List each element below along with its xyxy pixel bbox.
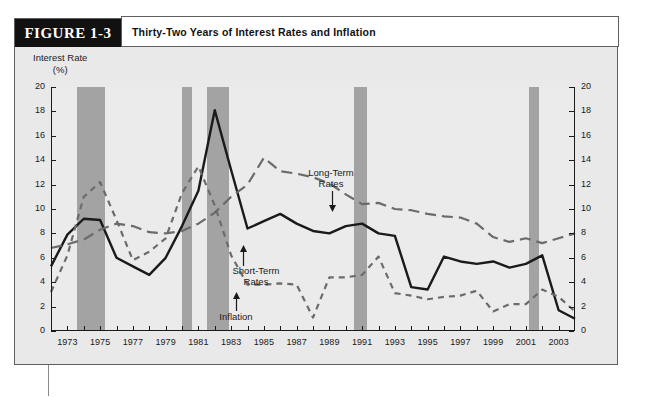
- y-tick-left: [51, 209, 56, 210]
- x-axis-tick-label: 1991: [345, 337, 379, 347]
- x-tick: [67, 326, 68, 331]
- y-tick-left: [51, 233, 56, 234]
- figure-title-bar: Thirty-Two Years of Interest Rates and I…: [121, 16, 619, 47]
- y-axis-tick-label-left: 2: [23, 301, 45, 311]
- y-axis-tick-label-right: 4: [581, 276, 603, 286]
- page-left-rule: [48, 365, 49, 396]
- y-axis-tick-label-left: 4: [23, 276, 45, 286]
- x-tick: [100, 326, 101, 331]
- x-tick: [346, 326, 347, 331]
- y-tick-right: [569, 258, 574, 259]
- x-axis-tick-label: 1977: [116, 337, 150, 347]
- x-tick: [411, 326, 412, 331]
- chart-plot-area: 02468101214161820 02468101214161820 1973…: [51, 87, 575, 331]
- x-axis-tick-label: 1983: [214, 337, 248, 347]
- x-axis-tick-label: 1995: [411, 337, 445, 347]
- x-axis-tick-label: 1975: [83, 337, 117, 347]
- y-axis-tick-label-right: 12: [581, 179, 603, 189]
- annotation-short-term-line1: Short-Term: [215, 265, 297, 276]
- x-axis-tick-label: 1985: [247, 337, 281, 347]
- x-axis-tick-label: 2003: [542, 337, 576, 347]
- figure-title-text: Thirty-Two Years of Interest Rates and I…: [132, 26, 376, 38]
- x-tick: [444, 326, 445, 331]
- x-axis-tick-label: 1993: [378, 337, 412, 347]
- y-tick-right: [569, 209, 574, 210]
- x-tick: [477, 326, 478, 331]
- x-tick: [166, 326, 167, 331]
- y-tick-left: [51, 307, 56, 308]
- y-axis-tick-label-left: 12: [23, 179, 45, 189]
- x-tick: [526, 326, 527, 331]
- x-tick: [117, 326, 118, 331]
- y-axis-tick-label-right: 20: [581, 81, 603, 91]
- x-tick: [559, 326, 560, 331]
- annotation-short-term-line2: Rates: [215, 276, 297, 287]
- y-axis-tick-label-left: 14: [23, 154, 45, 164]
- y-axis-tick-label-left: 18: [23, 105, 45, 115]
- y-axis-tick-label-left: 0: [23, 325, 45, 335]
- y-axis-tick-label-left: 20: [23, 81, 45, 91]
- y-axis-tick-label-right: 18: [581, 105, 603, 115]
- y-tick-left: [51, 282, 56, 283]
- y-tick-right: [569, 136, 574, 137]
- y-axis-tick-label-left: 10: [23, 203, 45, 213]
- x-tick: [198, 326, 199, 331]
- figure-number-label: FIGURE 1-3: [24, 25, 111, 42]
- chart-series-layer: [51, 87, 575, 331]
- x-tick: [362, 326, 363, 331]
- x-tick: [493, 326, 494, 331]
- x-tick: [264, 326, 265, 331]
- annotation-arrow-short-term-icon: [239, 244, 248, 266]
- y-axis-title: Interest Rate (%): [33, 52, 87, 76]
- y-axis-tick-label-left: 16: [23, 130, 45, 140]
- x-axis-tick-label: 1987: [280, 337, 314, 347]
- y-axis-tick-label-left: 8: [23, 227, 45, 237]
- y-tick-left: [51, 136, 56, 137]
- y-tick-left: [51, 160, 56, 161]
- annotation-inflation-line1: Inflation: [201, 311, 271, 322]
- x-axis-tick-label: 1979: [149, 337, 183, 347]
- x-axis-tick-label: 1997: [443, 337, 477, 347]
- x-tick: [313, 326, 314, 331]
- y-tick-right: [569, 111, 574, 112]
- x-tick: [460, 326, 461, 331]
- y-tick-left: [51, 111, 56, 112]
- y-tick-right: [569, 331, 574, 332]
- annotation-inflation: Inflation: [201, 311, 271, 322]
- x-tick: [133, 326, 134, 331]
- y-axis-tick-label-right: 10: [581, 203, 603, 213]
- annotation-long-term-line2: Rates: [291, 178, 371, 189]
- x-axis-tick-label: 2001: [509, 337, 543, 347]
- x-tick: [280, 326, 281, 331]
- y-tick-left: [51, 258, 56, 259]
- y-axis-title-line1: Interest Rate: [33, 52, 87, 64]
- y-axis-title-line2: (%): [33, 64, 87, 76]
- x-tick: [297, 326, 298, 331]
- y-axis-tick-label-left: 6: [23, 252, 45, 262]
- figure-panel: FIGURE 1-3 Thirty-Two Years of Interest …: [14, 18, 618, 365]
- annotation-long-term-rates: Long-Term Rates: [291, 167, 371, 189]
- x-tick: [182, 326, 183, 331]
- y-axis-tick-label-right: 16: [581, 130, 603, 140]
- x-tick: [428, 326, 429, 331]
- x-tick: [542, 326, 543, 331]
- x-tick: [149, 326, 150, 331]
- y-axis-tick-label-right: 2: [581, 301, 603, 311]
- annotation-arrow-inflation-icon: [232, 291, 241, 311]
- x-tick: [379, 326, 380, 331]
- x-tick: [329, 326, 330, 331]
- figure-number-block: FIGURE 1-3: [15, 19, 121, 47]
- y-axis-tick-label-right: 14: [581, 154, 603, 164]
- y-tick-right: [569, 282, 574, 283]
- x-tick: [510, 326, 511, 331]
- y-axis-tick-label-right: 8: [581, 227, 603, 237]
- y-tick-right: [569, 307, 574, 308]
- x-axis-tick-label: 1973: [50, 337, 84, 347]
- y-tick-right: [569, 233, 574, 234]
- y-tick-right: [569, 185, 574, 186]
- y-axis-tick-label-right: 0: [581, 325, 603, 335]
- y-axis-right-line: [574, 87, 575, 331]
- y-tick-right: [569, 87, 574, 88]
- y-tick-left: [51, 331, 56, 332]
- annotation-arrow-long-term-icon: [328, 191, 337, 213]
